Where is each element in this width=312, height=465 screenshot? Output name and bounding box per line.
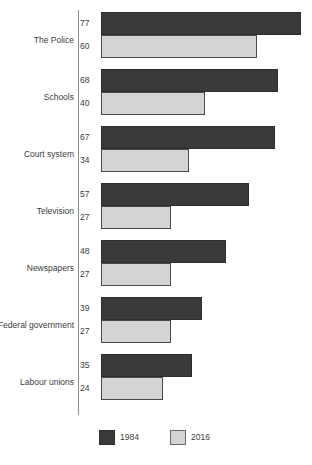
- value-label: 60: [80, 35, 98, 58]
- dark-swatch-icon: [99, 430, 115, 445]
- bar-1984: [101, 126, 275, 149]
- bar-1984: [101, 354, 192, 377]
- bar-2016: [101, 206, 171, 229]
- value-label: 34: [80, 149, 98, 172]
- bar-row: 27: [0, 206, 312, 229]
- bar-row: 40: [0, 92, 312, 115]
- bar-group: Schools 68 40: [0, 69, 312, 126]
- bar-2016: [101, 377, 163, 400]
- value-label: 48: [80, 240, 98, 263]
- value-label: 27: [80, 206, 98, 229]
- value-label: 24: [80, 377, 98, 400]
- bar-group: Federal government 39 27: [0, 297, 312, 354]
- bar-row: 60: [0, 35, 312, 58]
- legend-item-1984: 1984: [99, 428, 139, 446]
- value-label: 57: [80, 183, 98, 206]
- bar-2016: [101, 263, 171, 286]
- bar-1984: [101, 183, 249, 206]
- bar-2016: [101, 35, 257, 58]
- value-label: 27: [80, 263, 98, 286]
- bar-row: 35: [0, 354, 312, 377]
- legend-label: 1984: [120, 430, 139, 445]
- value-label: 68: [80, 69, 98, 92]
- bar-row: 77: [0, 12, 312, 35]
- bar-row: 68: [0, 69, 312, 92]
- bar-2016: [101, 92, 205, 115]
- legend-label: 2016: [191, 430, 210, 445]
- light-swatch-icon: [170, 430, 186, 445]
- bar-1984: [101, 12, 301, 35]
- bar-row: 27: [0, 320, 312, 343]
- bar-row: 48: [0, 240, 312, 263]
- bar-row: 39: [0, 297, 312, 320]
- value-label: 27: [80, 320, 98, 343]
- plot-area: The Police 77 60 Schools 68 40 C: [0, 0, 312, 420]
- bar-group: Labour unions 35 24: [0, 354, 312, 411]
- bar-row: 24: [0, 377, 312, 400]
- bar-row: 34: [0, 149, 312, 172]
- value-label: 35: [80, 354, 98, 377]
- bar-2016: [101, 320, 171, 343]
- legend-item-2016: 2016: [170, 428, 210, 446]
- value-label: 77: [80, 12, 98, 35]
- bar-1984: [101, 240, 226, 263]
- bar-1984: [101, 297, 202, 320]
- bar-chart: The Police 77 60 Schools 68 40 C: [0, 0, 312, 465]
- bar-row: 57: [0, 183, 312, 206]
- bar-group: Television 57 27: [0, 183, 312, 240]
- value-label: 67: [80, 126, 98, 149]
- value-label: 40: [80, 92, 98, 115]
- bar-group: Newspapers 48 27: [0, 240, 312, 297]
- bar-row: 27: [0, 263, 312, 286]
- value-label: 39: [80, 297, 98, 320]
- bar-row: 67: [0, 126, 312, 149]
- chart-legend: 1984 2016: [0, 428, 312, 448]
- bar-2016: [101, 149, 189, 172]
- bar-group: Court system 67 34: [0, 126, 312, 183]
- bar-group: The Police 77 60: [0, 12, 312, 69]
- bar-1984: [101, 69, 278, 92]
